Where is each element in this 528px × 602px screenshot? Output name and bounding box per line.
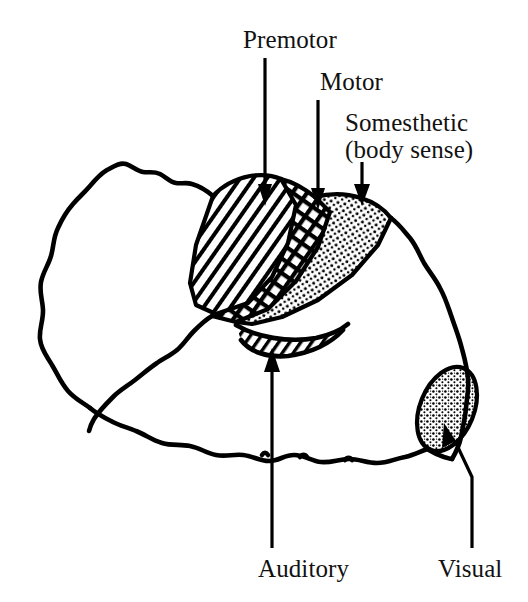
- label-premotor: Premotor: [243, 27, 337, 54]
- leader-auditory: [264, 348, 280, 548]
- label-auditory: Auditory: [258, 556, 349, 583]
- label-somesthetic: Somesthetic(body sense): [345, 110, 473, 163]
- brain-dorsal-frontal-contour: [40, 164, 213, 408]
- cortex-regions: [180, 165, 484, 462]
- label-somesthetic-line2: (body sense): [345, 136, 473, 163]
- label-somesthetic-line1: Somesthetic: [345, 109, 468, 136]
- ventral-tick-3: [345, 458, 352, 460]
- ventral-tick-2: [300, 455, 307, 457]
- ventral-tick-1: [262, 453, 268, 455]
- label-visual: Visual: [438, 556, 502, 583]
- brain-ventral-temporal-contour: [90, 408, 427, 463]
- label-motor: Motor: [320, 69, 383, 96]
- leader-visual: [442, 423, 472, 548]
- leader-motor: [311, 100, 325, 210]
- brain-diagram: [0, 0, 528, 602]
- temporal-lobe-anterior-edge: [89, 316, 212, 431]
